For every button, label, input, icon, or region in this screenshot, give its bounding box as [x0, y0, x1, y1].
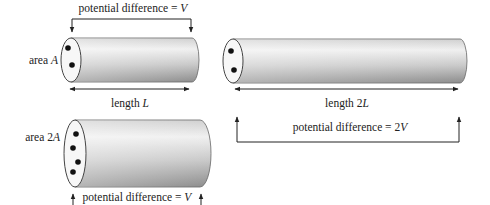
charge-dot — [70, 145, 76, 151]
charge-dot — [228, 48, 234, 54]
charge-dot — [70, 169, 76, 175]
diagram-canvas: potential difference = V area A length L… — [0, 0, 490, 205]
length-label-2: length 2L — [325, 97, 369, 110]
pd-label-3: potential difference = V — [83, 191, 194, 204]
cylinder-3-endcap — [64, 120, 86, 187]
cylinder-1-endcap — [61, 38, 81, 82]
cylinder-3 — [64, 120, 211, 187]
area-label-1: area A — [29, 54, 59, 66]
length-label-1: length L — [111, 97, 149, 110]
charge-dot — [69, 62, 75, 68]
pd-label-1: potential difference = V — [79, 2, 190, 15]
charge-dot — [65, 45, 71, 51]
charge-dot — [231, 67, 237, 73]
pd-label-2: potential difference = 2V — [293, 121, 410, 134]
pd-bracket-1 — [72, 19, 191, 32]
charge-dot — [75, 159, 81, 165]
cylinder-2 — [223, 39, 467, 83]
charge-dot — [73, 131, 79, 137]
cylinder-2-endcap — [223, 39, 243, 83]
area-label-3: area 2A — [25, 131, 61, 143]
cylinder-1 — [61, 38, 199, 82]
